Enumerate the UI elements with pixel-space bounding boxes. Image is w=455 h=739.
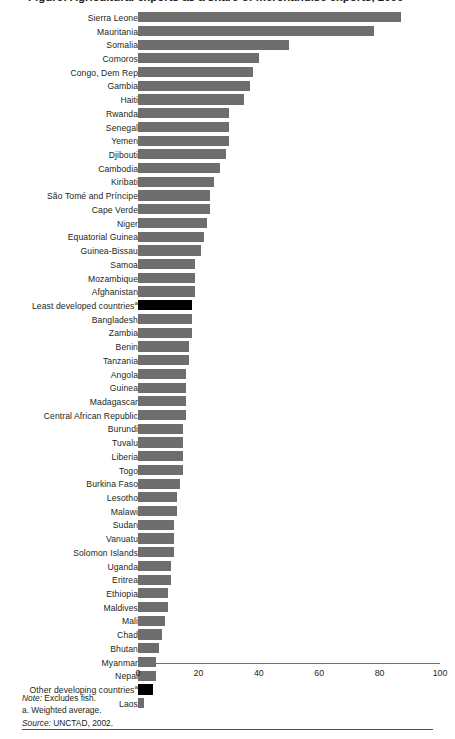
bar-track: [138, 575, 440, 585]
bar-category-label: Afghanistan: [92, 288, 138, 297]
bar-track: [138, 94, 440, 104]
bar-row: Guinea: [0, 381, 455, 395]
bar: [138, 410, 186, 420]
bar-track: [138, 643, 440, 653]
bar: [138, 177, 214, 187]
bar-track: [138, 81, 440, 91]
bar-row: Equatorial Guinea: [0, 231, 455, 245]
bar-category-label: Zambia: [109, 329, 138, 338]
bar-category-label: Sierra Leone: [88, 13, 138, 22]
bar-category-label: Haiti: [120, 96, 138, 105]
bar-track: [138, 616, 440, 626]
bar-row: Mozambique: [0, 272, 455, 286]
bar: [138, 286, 195, 296]
bar-chart-plot-area: Sierra LeoneMauritaniaSomaliaComorosCong…: [0, 11, 455, 663]
bar-row: Guinea-Bissau: [0, 244, 455, 258]
bar-category-label: Mali: [122, 617, 138, 626]
bar-track: [138, 369, 440, 379]
bar-track: [138, 396, 440, 406]
bar-row: Mauritania: [0, 25, 455, 39]
bar-track: [138, 53, 440, 63]
bar-track: [138, 122, 440, 132]
figure-title: Figure: Agricultural exports as a share …: [28, 0, 403, 3]
bar: [138, 149, 226, 159]
bar: [138, 26, 374, 36]
source-line: Source: UNCTAD, 2002.: [22, 717, 442, 729]
bar-track: [138, 328, 440, 338]
bar-category-label: Malawi: [111, 507, 138, 516]
bar-track: [138, 218, 440, 228]
bar-track: [138, 588, 440, 598]
bar: [138, 314, 192, 324]
bar: [138, 355, 189, 365]
bar-category-label: Central African Republic: [44, 411, 138, 420]
bar-category-label: Burkina Faso: [86, 480, 138, 489]
source-text: UNCTAD, 2002.: [51, 718, 113, 728]
bar: [138, 190, 210, 200]
bar-track: [138, 341, 440, 351]
bar: [138, 479, 180, 489]
bar-row: Congo, Dem Rep: [0, 66, 455, 80]
bar-category-label: Maldives: [103, 603, 138, 612]
bar-category-label: Djibouti: [109, 151, 138, 160]
bar-row: Lesotho: [0, 491, 455, 505]
bar-row: Comoros: [0, 52, 455, 66]
bar-category-label: Equatorial Guinea: [68, 233, 138, 242]
bar-track: [138, 561, 440, 571]
bar-category-label: Tanzania: [103, 356, 138, 365]
bar-row: Eritrea: [0, 573, 455, 587]
bar-row: Afghanistan: [0, 285, 455, 299]
bar-category-label: Guinea: [110, 384, 138, 393]
bar: [138, 94, 244, 104]
bar-category-label: Kiribati: [111, 178, 138, 187]
bar: [138, 437, 183, 447]
footnote-a: a. Weighted average.: [22, 704, 442, 716]
bar: [138, 232, 204, 242]
bar-row: Senegal: [0, 121, 455, 135]
bar-track: [138, 410, 440, 420]
bar-category-label: Guinea-Bissau: [81, 247, 139, 256]
bar-row: Burundi: [0, 423, 455, 437]
x-axis-line: [138, 663, 440, 664]
bar-track: [138, 204, 440, 214]
bar-category-label: Madagascar: [90, 397, 138, 406]
bar-category-label: Bangladesh: [92, 315, 138, 324]
bar-track: [138, 300, 440, 310]
bar-category-label: São Tomé and Príncipe: [47, 192, 138, 201]
bar-track: [138, 273, 440, 283]
bar-row: Central African Republic: [0, 409, 455, 423]
bar-track: [138, 520, 440, 530]
bar-category-label: Tuvalu: [112, 439, 138, 448]
bar-track: [138, 437, 440, 447]
bar-track: [138, 451, 440, 461]
bar-category-label: Togo: [119, 466, 138, 475]
bar-category-label: Liberia: [112, 452, 138, 461]
bar-category-label: Senegal: [106, 123, 138, 132]
bar: [138, 424, 183, 434]
bar: [138, 273, 195, 283]
bar-row: Vanuatu: [0, 532, 455, 546]
x-axis-tick-label: 80: [375, 668, 385, 678]
bar-category-label: Burundi: [108, 425, 138, 434]
x-axis-tick-label: 40: [254, 668, 264, 678]
bar: [138, 369, 186, 379]
bar-row: Haiti: [0, 93, 455, 107]
bar: [138, 629, 162, 639]
bar-category-label: Bhutan: [110, 644, 138, 653]
bar-category-label: Least developed countriesa: [32, 301, 138, 310]
bar: [138, 451, 183, 461]
bar-category-label: Sudan: [113, 521, 138, 530]
bar-track: [138, 492, 440, 502]
bar-track: [138, 245, 440, 255]
bar-track: [138, 177, 440, 187]
bar-category-label: Yemen: [111, 137, 138, 146]
x-axis-tick-label: 60: [314, 668, 324, 678]
bar-track: [138, 26, 440, 36]
bar: [138, 67, 253, 77]
bar: [138, 465, 183, 475]
bar: [138, 204, 210, 214]
bar-track: [138, 163, 440, 173]
bar-track: [138, 259, 440, 269]
bar-category-label: Samoa: [110, 260, 138, 269]
bar-category-label: Gambia: [107, 82, 138, 91]
